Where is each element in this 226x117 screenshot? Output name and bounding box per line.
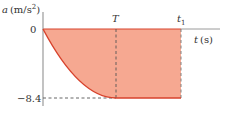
y-tick-min: −8.4 [17,93,41,104]
x-axis-label: t(s) [194,34,213,45]
x-tick-t1: t1 [177,13,186,27]
x-tick-T: T [112,13,120,24]
y-axis-label: a(m/s2) [2,3,40,15]
y-tick-zero: 0 [30,24,36,35]
chart: a(m/s2) 0 −8.4 T t1 t(s) [0,0,226,117]
